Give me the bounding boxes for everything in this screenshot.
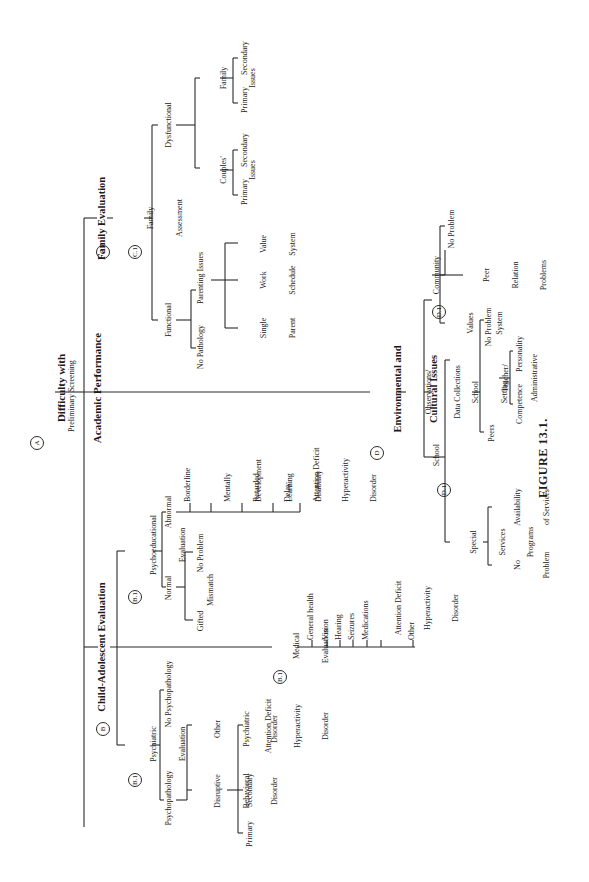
medical-medications: Medications: [361, 594, 371, 640]
no-problem-psychoed: No Problem: [196, 530, 206, 576]
work-schedule: Work Schedule: [240, 260, 307, 300]
single-parent: Single Parent: [240, 310, 307, 346]
no-pathology: No Pathology: [196, 322, 206, 372]
medical-general-health: General health: [306, 580, 316, 640]
badge-d1-community: D.1: [432, 305, 446, 319]
family-evaluation-title: Family Evaluation: [96, 180, 108, 260]
values-system: Values System: [447, 308, 514, 338]
figure-caption: FIGURE 13.1.: [536, 418, 551, 498]
no-problem-special: No Problem: [494, 548, 561, 582]
child-adolescent-title: Child-Adolescent Evaluation: [96, 582, 108, 712]
couples-secondary: Secondary: [240, 130, 250, 170]
abnormal: Abnormal: [164, 494, 174, 530]
medical-seizures: Seizures: [347, 610, 357, 640]
dbd-secondary: Secondary: [245, 770, 255, 810]
abnormal-borderline: Borderline: [183, 462, 193, 502]
medical-adhd: Attention Deficit Hyperactivity Disorder: [375, 576, 470, 640]
family-assessment: Family Assessment: [127, 196, 194, 240]
dysfunctional: Dysfunctional: [164, 98, 174, 152]
community: Community: [432, 252, 442, 298]
badge-b1-psychiatric: B.1: [128, 773, 142, 787]
couples-primary: Primary: [240, 174, 250, 210]
mismatch: Mismatch: [206, 570, 216, 610]
badge-d1-school: D.1: [437, 483, 451, 497]
peer-relation-problems: Peer Relation Problems: [463, 255, 558, 295]
family-primary: Primary: [240, 82, 250, 118]
functional: Functional: [164, 300, 174, 340]
personality: Personality: [515, 330, 525, 378]
badge-b1-medical: B.1: [273, 670, 287, 684]
dbd-adhd: Attention Deficit Hyperactivity Disorder: [245, 694, 340, 758]
medical-hearing: Hearing: [334, 610, 344, 640]
dbd-primary: Primary: [245, 818, 255, 850]
flowchart-diagram: A Difficulty with Academic Performance P…: [0, 0, 589, 882]
badge-b1-psychoed: B.1: [128, 590, 142, 604]
no-psychopathology: No Psychopathology: [164, 656, 174, 732]
couples-issues: Couples' Issues: [200, 152, 267, 188]
no-problem-community: No Problem: [447, 206, 457, 252]
value-system: Value System: [240, 226, 307, 262]
parenting-issues: Parenting Issues: [196, 246, 206, 310]
normal: Normal: [164, 573, 174, 603]
competence: Competence: [515, 380, 525, 428]
badge-c1: C.1: [128, 245, 142, 259]
disruptive-behavioral-disorder: Disruptive Behavioral Disorder: [194, 770, 289, 812]
preliminary-screening: Preliminary Screening: [67, 356, 77, 436]
badge-b: B: [96, 722, 110, 736]
school: School: [432, 440, 442, 470]
peers: Peers: [487, 418, 497, 448]
badge-d: D: [370, 446, 384, 460]
family-issues: Family Issues: [200, 60, 267, 96]
medical-other: Other: [407, 616, 417, 640]
family-secondary: Secondary: [240, 38, 250, 78]
gifted: Gifted: [196, 606, 206, 636]
medical-vision: Vision: [321, 610, 331, 640]
psychopathology: Psychopathology: [164, 766, 174, 830]
